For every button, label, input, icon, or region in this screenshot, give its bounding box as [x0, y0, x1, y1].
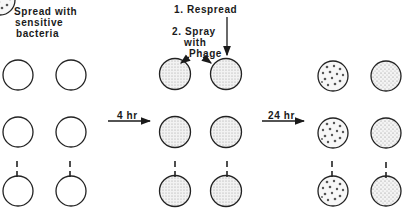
stippled-plate: [211, 59, 242, 90]
lawn-plate: [371, 118, 401, 148]
arrows: [108, 17, 304, 121]
plates-initial: [3, 60, 86, 206]
empty-plate: [56, 176, 86, 206]
empty-plate: [3, 60, 33, 90]
stippled-plate: [160, 117, 191, 148]
stippled-plate: [211, 117, 242, 148]
lawn-plate: [371, 176, 401, 206]
plates-24hr-lawn: [371, 61, 401, 206]
stippled-plate: [211, 176, 242, 207]
arrow-spray-right: [203, 57, 211, 63]
plates-4hr: [160, 59, 242, 207]
plaque-plate: [318, 176, 348, 206]
diagram-canvas: [0, 0, 402, 214]
stippled-plate: [160, 176, 191, 207]
empty-plate: [3, 176, 33, 206]
plates-24hr-plaques: [0, 0, 15, 15]
empty-plate: [56, 60, 86, 90]
plaque-plate: [318, 61, 348, 91]
stippled-plate: [160, 59, 191, 90]
plaque-plate: [318, 118, 348, 148]
lawn-plate: [371, 61, 401, 91]
empty-plate: [56, 117, 86, 147]
empty-plate: [3, 117, 33, 147]
